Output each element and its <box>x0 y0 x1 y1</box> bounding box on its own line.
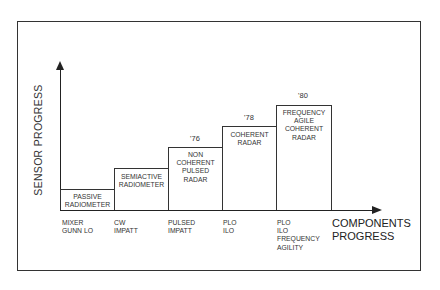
y-axis-label: SENSOR PROGRESS <box>32 84 44 195</box>
step-coherent-radar: COHERENT RADAR <box>222 126 277 210</box>
step-noncoherent-pulsed-radar: NON COHERENT PULSED RADAR <box>168 147 223 210</box>
component-label: PLO ILO <box>223 219 237 235</box>
x-axis-label: COMPONENTS PROGRESS <box>332 217 411 243</box>
step-year: '80 <box>276 91 330 100</box>
step-label: COHERENT RADAR <box>223 131 276 147</box>
component-label: PULSED IMPATT <box>168 219 195 235</box>
component-label: MIXER GUNN LO <box>62 219 93 235</box>
x-axis-arrow-icon <box>372 206 382 214</box>
step-label: PASSIVE RADIOMETER <box>61 193 114 209</box>
step-year: '76 <box>168 134 222 143</box>
step-semiactive-radiometer: SEMIACTIVE RADIOMETER <box>114 168 169 210</box>
step-passive-radiometer: PASSIVE RADIOMETER <box>60 189 115 210</box>
x-axis-label-text: COMPONENTS PROGRESS <box>332 217 411 242</box>
step-label: FREQUENCY AGILE COHERENT RADAR <box>277 109 331 142</box>
y-axis-arrow-icon <box>56 61 64 70</box>
step-year: '78 <box>222 113 276 122</box>
component-label: CW IMPATT <box>114 219 138 235</box>
step-label: NON COHERENT PULSED RADAR <box>169 151 222 184</box>
step-label: SEMIACTIVE RADIOMETER <box>115 173 168 189</box>
step-frequency-agile-coherent-radar: FREQUENCY AGILE COHERENT RADAR <box>276 105 332 210</box>
component-label: PLO ILO FREQUENCY AGILITY <box>277 219 320 252</box>
